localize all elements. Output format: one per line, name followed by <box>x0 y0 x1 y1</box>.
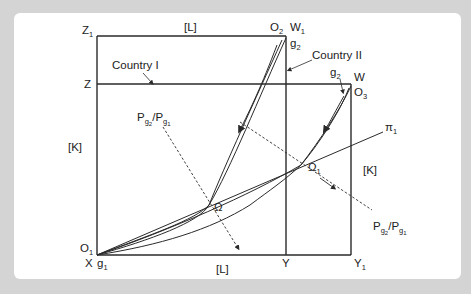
label-country2: Country II <box>312 50 362 62</box>
label-omega1: Ω1 <box>308 162 321 176</box>
label-omega: Ω <box>214 202 223 214</box>
label-Y1: Y1 <box>354 258 366 272</box>
label-W: W <box>354 72 365 84</box>
axis-label-L-bottom: [L] <box>216 264 229 276</box>
label-Z1: Z1 <box>82 25 93 39</box>
axis-label-K-right: [K] <box>363 165 377 177</box>
label-Z: Z <box>84 79 91 91</box>
country1-pointer <box>143 73 152 83</box>
label-price-ratio-left: Pg2/Pg1 <box>137 112 171 127</box>
pi1-ray <box>97 132 383 255</box>
country2-pointer <box>289 60 312 70</box>
label-O3: O3 <box>354 87 367 101</box>
label-g1: g1 <box>97 258 108 272</box>
contract-curve-O2-inner <box>97 40 282 255</box>
label-country1: Country I <box>112 60 159 72</box>
price-ratio-line-left <box>163 127 238 248</box>
label-X: X <box>85 258 93 270</box>
axis-label-L-top: [L] <box>184 22 197 34</box>
label-Y: Y <box>282 258 290 270</box>
label-O1: O1 <box>80 243 93 257</box>
label-g2-top: g2 <box>290 38 301 52</box>
label-price-ratio-right: Pg2/Pg1 <box>373 221 407 236</box>
label-g2-right: g2 <box>330 67 341 81</box>
axis-label-K-left: [K] <box>68 142 82 154</box>
arrow-curve-O3 <box>325 96 344 130</box>
label-W1: W1 <box>290 22 305 36</box>
price-ratio-line-right <box>240 122 372 210</box>
label-O2: O2 <box>270 22 283 36</box>
arrow-curve-O2 <box>240 45 277 130</box>
label-pi1: π1 <box>385 122 397 136</box>
